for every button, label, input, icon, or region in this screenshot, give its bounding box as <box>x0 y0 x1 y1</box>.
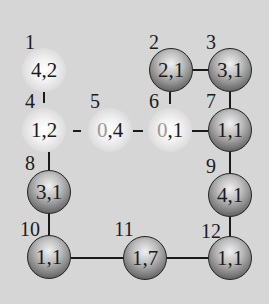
edge-11-12 <box>167 257 208 259</box>
node-value: 4,2 <box>31 58 57 83</box>
edge-4-5 <box>73 130 81 132</box>
edge-6-7 <box>192 130 208 132</box>
node-index-label: 5 <box>90 91 100 111</box>
edge-2-3 <box>193 69 208 71</box>
node-index-label: 1 <box>25 32 35 52</box>
node-10: 1,1 <box>27 235 71 279</box>
node-value: 4,1 <box>217 183 243 208</box>
node-index-label: 7 <box>206 91 216 111</box>
node-index-label: 3 <box>206 32 216 52</box>
node-index-label: 11 <box>114 219 133 239</box>
node-value: 1,2 <box>31 118 57 143</box>
node-value: 2,1 <box>158 58 184 83</box>
node-value-first: 0 <box>157 118 168 143</box>
node-value-second: 1 <box>173 118 184 143</box>
node-value: 1,1 <box>217 246 243 271</box>
edge-7-9 <box>229 152 231 173</box>
node-8: 3,1 <box>27 170 71 214</box>
node-7: 1,1 <box>208 108 252 152</box>
node-5: 0,4 <box>88 108 132 152</box>
edge-10-11 <box>71 257 123 259</box>
edge-4-8 <box>48 152 50 170</box>
node-value: 1,7 <box>132 246 158 271</box>
node-4: 1,2 <box>22 108 66 152</box>
node-2: 2,1 <box>149 48 193 92</box>
node-index-label: 6 <box>149 91 159 111</box>
node-index-label: 8 <box>25 153 35 173</box>
node-12: 1,1 <box>208 236 252 280</box>
edge-1-4 <box>43 92 45 103</box>
node-index-label: 2 <box>149 32 159 52</box>
node-value-second: 4 <box>113 118 124 143</box>
node-value: 1,1 <box>217 118 243 143</box>
node-3: 3,1 <box>208 48 252 92</box>
node-index-label: 4 <box>25 91 35 111</box>
node-11: 1,7 <box>123 236 167 280</box>
node-value: 3,1 <box>36 180 62 205</box>
node-1: 4,2 <box>22 48 66 92</box>
node-value: 3,1 <box>217 58 243 83</box>
edge-3-7 <box>229 92 231 108</box>
edge-2-6 <box>169 92 171 104</box>
node-index-label: 10 <box>20 219 40 239</box>
edge-8-10 <box>48 214 50 235</box>
edge-5-6 <box>133 130 143 132</box>
node-9: 4,1 <box>208 173 252 217</box>
node-value: 1,1 <box>36 245 62 270</box>
node-index-label: 9 <box>206 156 216 176</box>
node-value-first: 0 <box>97 118 108 143</box>
edge-9-12 <box>229 217 231 236</box>
grid-graph-diagram: 1 2 3 4 5 6 7 8 9 10 11 12 4,2 2,1 3,1 1… <box>0 0 269 304</box>
node-6: 0,1 <box>148 108 192 152</box>
